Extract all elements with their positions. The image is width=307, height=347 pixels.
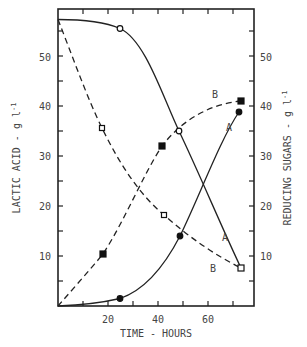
marker-lactic-a-72h	[236, 109, 242, 115]
data-markers	[100, 26, 245, 302]
y-axis-title-left-text: LACTIC ACID - g l	[11, 111, 22, 213]
marker-lactic-b-73h	[238, 98, 244, 104]
y-right-tick-label-40: 40	[260, 101, 272, 112]
marker-sugars-a-48h	[176, 128, 182, 134]
axis-ticks	[58, 9, 254, 306]
marker-sugars-b-18h	[100, 126, 105, 131]
y-left-tick-label-50: 50	[39, 52, 51, 63]
y-axis-title-right: REDUCING SUGARS - g l-1	[281, 91, 293, 226]
curve-sugars-b	[58, 20, 241, 269]
y-axis-title-left-sup: -1	[10, 103, 18, 111]
y-left-tick-label-10: 10	[39, 251, 51, 262]
y-axis-title-right-sup: -1	[281, 91, 289, 99]
marker-lactic-a-25h	[117, 296, 123, 302]
curve-label-a-sugars: A	[222, 232, 228, 243]
x-axis-title: TIME - HOURS	[120, 328, 192, 339]
x-tick-label-60: 60	[202, 314, 214, 325]
svg-text:LACTIC ACID - g l-1: LACTIC ACID - g l-1	[10, 103, 22, 214]
marker-lactic-b-41h	[159, 143, 165, 149]
marker-sugars-end-73h	[238, 265, 244, 271]
marker-sugars-a-25h	[117, 26, 123, 32]
marker-sugars-b-42h	[162, 213, 167, 218]
y-axis-title-left: LACTIC ACID - g l-1	[10, 103, 22, 214]
curve-labels: B A A B	[210, 89, 232, 274]
curve-lactic-b	[58, 101, 241, 306]
curve-sugars-a	[58, 20, 241, 269]
y-left-tick-label-40: 40	[39, 101, 51, 112]
y-right-tick-label-20: 20	[260, 201, 272, 212]
curve-lactic-a	[58, 112, 239, 306]
x-tick-label-20: 20	[102, 314, 114, 325]
y-left-tick-label-20: 20	[39, 201, 51, 212]
curve-label-b-sugars: B	[210, 263, 216, 274]
curve-label-b-lactic: B	[212, 89, 218, 100]
curve-label-a-lactic: A	[226, 122, 232, 133]
x-tick-label-40: 40	[152, 314, 164, 325]
y-left-tick-label-30: 30	[39, 151, 51, 162]
y-axis-title-right-text: REDUCING SUGARS - g l	[282, 99, 293, 225]
marker-lactic-b-18h	[100, 251, 106, 257]
fermentation-chart: 20 40 60 10 20 30 40 50 10 20 30 40 50 T…	[0, 0, 307, 347]
y-right-tick-label-30: 30	[260, 151, 272, 162]
svg-text:REDUCING SUGARS - g l-1: REDUCING SUGARS - g l-1	[281, 91, 293, 226]
tick-labels: 20 40 60 10 20 30 40 50 10 20 30 40 50	[39, 52, 272, 325]
y-right-tick-label-50: 50	[260, 52, 272, 63]
marker-lactic-a-49h	[177, 233, 183, 239]
plot-frame	[58, 9, 254, 306]
y-right-tick-label-10: 10	[260, 251, 272, 262]
